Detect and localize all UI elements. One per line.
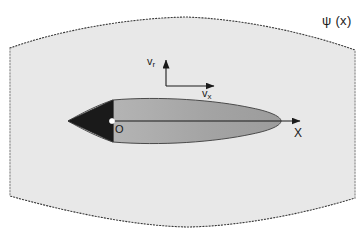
vx-label: vx	[202, 88, 212, 99]
vx-label-subscript: x	[208, 92, 212, 101]
vx-label-base: v	[202, 87, 208, 99]
origin-point-marker	[109, 118, 114, 123]
flow-diagram-svg	[0, 0, 364, 238]
origin-label: O	[115, 124, 124, 135]
figure-canvas: ψ (x) vr vx X O	[0, 0, 364, 238]
vr-label: vr	[147, 56, 155, 67]
vr-label-base: v	[147, 55, 153, 67]
stream-function-label: ψ (x)	[322, 14, 352, 27]
x-axis-label: X	[294, 127, 302, 139]
vr-label-subscript: r	[153, 60, 156, 69]
